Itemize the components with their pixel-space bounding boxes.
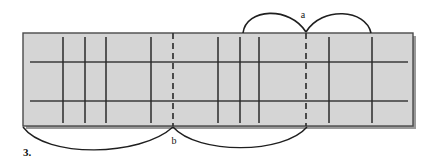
arc-bottom-right (173, 127, 307, 148)
arc-top-left (243, 13, 306, 33)
arc-bottom-left (23, 127, 173, 150)
point-label-a: a (301, 9, 306, 20)
diagram-canvas: a b (0, 0, 437, 165)
point-label-b: b (172, 135, 177, 146)
figure-caption: 3. (23, 146, 31, 158)
figure-container: a b 3. (0, 0, 437, 165)
arc-top-right (306, 14, 371, 33)
